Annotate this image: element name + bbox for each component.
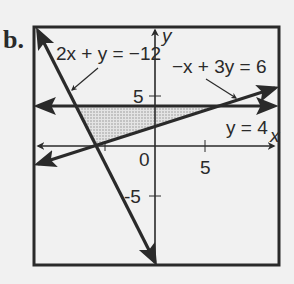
coordinate-graph: 2x + y = −12 −x + 3y = 6 y = 4 y x 5 -5 … bbox=[0, 0, 294, 284]
equation-label-3: y = 4 bbox=[226, 117, 268, 138]
equation-label-2: −x + 3y = 6 bbox=[172, 56, 267, 77]
tick-label-y-5: 5 bbox=[133, 86, 144, 107]
x-axis-label: x bbox=[269, 125, 281, 146]
equation-label-1: 2x + y = −12 bbox=[56, 43, 161, 64]
tick-label-y-neg5: -5 bbox=[124, 186, 141, 207]
tick-label-origin: 0 bbox=[139, 149, 150, 170]
tick-label-x-5: 5 bbox=[200, 157, 211, 178]
y-axis-label: y bbox=[160, 25, 173, 46]
